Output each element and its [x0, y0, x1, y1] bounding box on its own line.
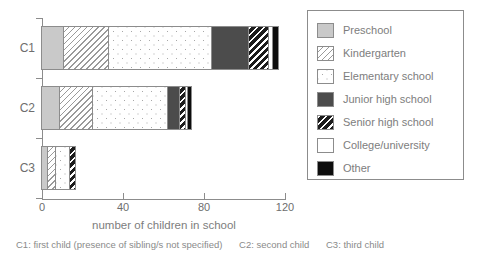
- y-axis-label-c2: C2: [20, 101, 35, 115]
- legend-swatch-icon: [317, 115, 334, 130]
- x-axis-tick-label: 80: [198, 201, 210, 213]
- y-axis-label-c1: C1: [20, 41, 35, 55]
- legend-item-college-university[interactable]: College/university: [317, 134, 463, 156]
- bar-segment-preschool: [41, 26, 64, 70]
- bar-segment-other: [187, 86, 192, 130]
- bar-c3: C3: [42, 146, 76, 190]
- x-axis-tick: [123, 193, 124, 199]
- legend-swatch-icon: [317, 161, 334, 176]
- legend-item-senior-high-school[interactable]: Senior high school: [317, 111, 463, 133]
- legend-label: Elementary school: [343, 70, 434, 82]
- bar-segment-elementary-school: [108, 26, 212, 70]
- legend-item-other[interactable]: Other: [317, 157, 463, 179]
- x-axis-tick-label: 40: [117, 201, 129, 213]
- legend-label: Junior high school: [343, 93, 432, 105]
- footnote-c3: C3: third child: [326, 239, 384, 250]
- y-axis-tick: [36, 198, 42, 199]
- bar-segment-kindergarten: [59, 86, 92, 130]
- legend-swatch-icon: [317, 92, 334, 107]
- legend-label: College/university: [343, 139, 430, 151]
- chart-legend: PreschoolKindergartenElementary schoolJu…: [307, 10, 464, 180]
- y-axis-tick: [36, 138, 42, 139]
- bar-segment-preschool: [41, 86, 60, 130]
- x-axis-title: number of children in school: [42, 219, 286, 231]
- bar-segment-elementary-school: [55, 146, 70, 190]
- bar-segment-junior-high-school: [211, 26, 248, 70]
- legend-swatch-icon: [317, 46, 334, 61]
- x-axis-tick: [42, 193, 43, 199]
- x-axis-tick-label: 120: [276, 201, 294, 213]
- x-axis-tick: [285, 193, 286, 199]
- legend-item-kindergarten[interactable]: Kindergarten: [317, 42, 463, 64]
- legend-label: Senior high school: [343, 116, 434, 128]
- legend-label: Kindergarten: [343, 47, 406, 59]
- bar-segment-senior-high-school: [69, 146, 76, 190]
- x-axis-tick: [204, 193, 205, 199]
- legend-item-elementary-school[interactable]: Elementary school: [317, 65, 463, 87]
- x-axis-tick-label: 0: [39, 201, 45, 213]
- y-axis-tick: [36, 78, 42, 79]
- bar-c2: C2: [42, 86, 192, 130]
- chart-footnote: C1: first child (presence of sibling/s n…: [16, 239, 384, 250]
- footnote-c2: C2: second child: [239, 239, 309, 250]
- legend-swatch-icon: [317, 138, 334, 153]
- plot-area: C1C2C3: [42, 18, 285, 198]
- legend-label: Preschool: [343, 24, 392, 36]
- bar-segment-other: [272, 26, 279, 70]
- legend-label: Other: [343, 162, 371, 174]
- bar-c1: C1: [42, 26, 279, 70]
- y-axis-label-c3: C3: [20, 161, 35, 175]
- legend-item-junior-high-school[interactable]: Junior high school: [317, 88, 463, 110]
- y-axis-tick: [36, 18, 42, 19]
- bar-segment-senior-high-school: [248, 26, 269, 70]
- x-axis-line: [42, 199, 286, 200]
- footnote-c1: C1: first child (presence of sibling/s n…: [16, 239, 222, 250]
- legend-item-preschool[interactable]: Preschool: [317, 19, 463, 41]
- bar-segment-kindergarten: [63, 26, 109, 70]
- legend-swatch-icon: [317, 23, 334, 38]
- stacked-bar-chart: C1C2C3 04080120 number of children in sc…: [0, 0, 478, 260]
- legend-swatch-icon: [317, 69, 334, 84]
- bar-segment-elementary-school: [92, 86, 168, 130]
